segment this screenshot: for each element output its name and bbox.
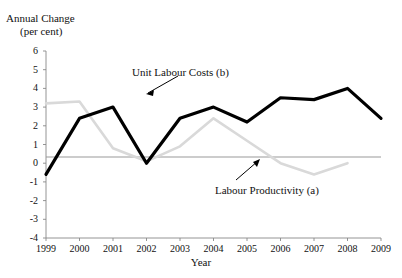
x-axis-title: Year — [0, 256, 402, 268]
x-tick-label: 2009 — [364, 243, 398, 254]
unit-labour-costs-arrowhead — [146, 90, 154, 96]
labour-productivity-arrowhead — [253, 159, 260, 167]
y-tick-label: 6 — [20, 45, 38, 56]
x-tick-label: 2002 — [130, 243, 164, 254]
x-tick-label: 2004 — [197, 243, 231, 254]
y-tick-label: 4 — [20, 82, 38, 93]
y-tick-label: 0 — [20, 157, 38, 168]
x-tick-label: 2005 — [230, 243, 264, 254]
series-label-unit-labour-costs: Unit Labour Costs (b) — [132, 66, 229, 78]
plot-area — [0, 0, 402, 278]
y-tick-label: 2 — [20, 120, 38, 131]
y-tick-label: -1 — [20, 176, 38, 187]
unit-labour-costs-arrow — [148, 76, 178, 93]
y-tick-label: -3 — [20, 213, 38, 224]
x-tick-label: 2007 — [297, 243, 331, 254]
y-tick-label: -4 — [20, 232, 38, 243]
data-series-group — [46, 88, 381, 174]
y-tick-label: 3 — [20, 101, 38, 112]
series-label-labour-productivity: Labour Productivity (a) — [215, 184, 319, 196]
x-tick-label: 2006 — [264, 243, 298, 254]
x-tick-label: 2008 — [331, 243, 365, 254]
x-tick-label: 2001 — [96, 243, 130, 254]
x-tick-label: 1999 — [29, 243, 63, 254]
chart-container: Annual Change (per cent) 6543210-1-2-3-4… — [0, 0, 402, 278]
series-line-unit-labour-costs-b — [46, 88, 381, 174]
y-tick-label: -2 — [20, 195, 38, 206]
y-tick-label: 1 — [20, 139, 38, 150]
x-tick-label: 2003 — [163, 243, 197, 254]
x-tick-label: 2000 — [63, 243, 97, 254]
y-tick-label: 5 — [20, 64, 38, 75]
axes — [46, 51, 381, 238]
